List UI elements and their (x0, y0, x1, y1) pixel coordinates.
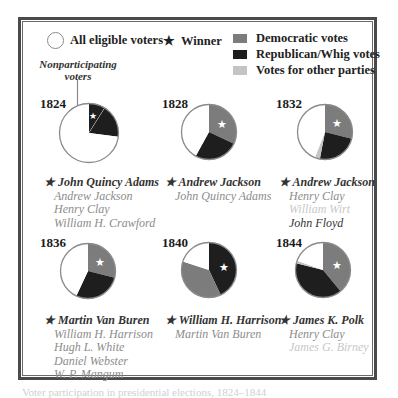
winner-star-icon: ★ (332, 117, 342, 130)
pie-1836: ★ (59, 242, 117, 300)
candidate-name: Henry Clay (279, 328, 369, 342)
pie-1840: ★ (180, 241, 238, 299)
candidate-name: Hugh L. White (44, 341, 153, 355)
winner-name: ★ James K. Polk (279, 314, 369, 328)
candidate-name: William Wirt (279, 203, 375, 217)
winner-star-icon: ★ (219, 261, 229, 274)
winner-name: ★ Andrew Jackson (279, 176, 375, 190)
pie-1828: ★ (180, 103, 238, 161)
winner-name: ★ Andrew Jackson (165, 176, 271, 190)
winner-name: ★ John Quincy Adams (44, 176, 159, 190)
candidate-name: Henry Clay (279, 190, 375, 204)
winner-name: ★ William H. Harrison (165, 314, 281, 328)
candidate-name: William H. Harrison (44, 328, 153, 342)
pie-1824: ★ (58, 102, 120, 164)
candidate-name: James G. Birney (279, 341, 369, 355)
figure-caption: Voter participation in presidential elec… (22, 386, 266, 398)
candidate-name: W. P. Mangum (44, 368, 153, 382)
winner-star-icon: ★ (89, 111, 97, 121)
candidate-name: William H. Crawford (44, 217, 159, 231)
candidates-1836: ★ Martin Van BurenWilliam H. HarrisonHug… (44, 314, 153, 382)
candidate-name: John Floyd (279, 217, 375, 231)
winner-star-icon: ★ (332, 259, 342, 272)
winner-star-icon: ★ (95, 256, 105, 269)
pie-1844: ★ (294, 241, 352, 299)
pie-1832: ★ (296, 103, 354, 161)
candidates-1840: ★ William H. HarrisonMartin Van Buren (165, 314, 281, 341)
candidate-name: Andrew Jackson (44, 190, 159, 204)
candidate-name: Martin Van Buren (165, 328, 281, 342)
candidates-1828: ★ Andrew JacksonJohn Quincy Adams (165, 176, 271, 203)
candidate-name: John Quincy Adams (165, 190, 271, 204)
winner-star-icon: ★ (217, 118, 227, 131)
candidate-name: Daniel Webster (44, 355, 153, 369)
candidate-name: Henry Clay (44, 203, 159, 217)
candidates-1844: ★ James K. PolkHenry ClayJames G. Birney (279, 314, 369, 355)
candidates-1824: ★ John Quincy AdamsAndrew JacksonHenry C… (44, 176, 159, 230)
winner-name: ★ Martin Van Buren (44, 314, 153, 328)
candidates-1832: ★ Andrew JacksonHenry ClayWilliam WirtJo… (279, 176, 375, 230)
